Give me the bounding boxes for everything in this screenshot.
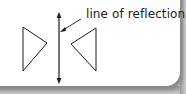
pointer-arrow-icon [60,27,66,32]
line-of-reflection-label: line of reflection [86,7,185,21]
left-triangle [23,27,47,71]
label-pointer-line [63,19,81,30]
right-triangle-reflection [71,28,96,71]
